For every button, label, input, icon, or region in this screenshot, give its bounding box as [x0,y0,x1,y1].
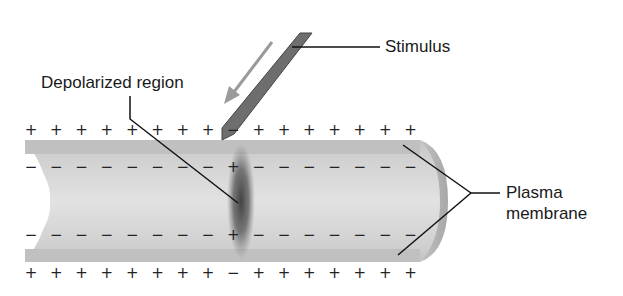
charge-outer-top: + [49,123,63,138]
charge-inner-top: − [75,160,89,175]
charge-outer-bottom: + [252,266,266,281]
depolarized-region-label: Depolarized region [41,73,184,93]
charge-outer-bottom: + [302,266,316,281]
charge-outer-top: + [176,123,190,138]
charge-inner-top: − [24,160,38,175]
charge-inner-bottom: − [353,228,367,243]
charge-inner-top: − [277,160,291,175]
charge-inner-bottom: − [49,228,63,243]
charge-outer-top: + [151,123,165,138]
charge-outer-top: − [226,123,240,138]
charge-inner-top: − [404,160,418,175]
charge-inner-top: − [176,160,190,175]
charge-outer-top: + [404,123,418,138]
charge-inner-top: + [226,160,240,175]
charge-inner-bottom: − [302,228,316,243]
charge-outer-top: + [302,123,316,138]
plasma-membrane-label-line1: Plasma [506,183,563,203]
charge-outer-top: + [378,123,392,138]
charge-outer-bottom: + [24,266,38,281]
charge-inner-top: − [302,160,316,175]
charge-outer-bottom: + [151,266,165,281]
charge-inner-top: − [378,160,392,175]
charge-inner-top: − [353,160,367,175]
charge-outer-top: + [277,123,291,138]
charge-outer-bottom: + [100,266,114,281]
charge-outer-bottom: + [201,266,215,281]
charge-inner-bottom: − [201,228,215,243]
charge-inner-bottom: − [151,228,165,243]
charge-outer-bottom: + [277,266,291,281]
charge-inner-bottom: − [404,228,418,243]
diagram-graphics [0,0,623,296]
charge-outer-bottom: + [378,266,392,281]
charge-inner-bottom: + [226,228,240,243]
charge-outer-bottom: + [49,266,63,281]
charge-outer-top: + [24,123,38,138]
charge-outer-top: + [328,123,342,138]
charge-outer-bottom: + [176,266,190,281]
charge-inner-bottom: − [176,228,190,243]
charge-outer-top: + [252,123,266,138]
charge-inner-top: − [252,160,266,175]
charge-outer-top: + [125,123,139,138]
charge-inner-top: − [328,160,342,175]
charge-outer-top: + [353,123,367,138]
charge-inner-bottom: − [100,228,114,243]
charge-inner-top: − [201,160,215,175]
charge-inner-bottom: − [75,228,89,243]
charge-inner-top: − [100,160,114,175]
plasma-membrane-top [25,140,420,154]
plasma-membrane-label-line2: membrane [506,204,587,224]
charge-inner-bottom: − [252,228,266,243]
charge-inner-bottom: − [378,228,392,243]
charge-outer-top: + [75,123,89,138]
charge-inner-top: − [151,160,165,175]
charge-outer-bottom: + [404,266,418,281]
charge-outer-bottom: + [328,266,342,281]
charge-outer-bottom: + [75,266,89,281]
charge-inner-top: − [125,160,139,175]
charge-outer-bottom: − [226,266,240,281]
charge-outer-top: + [201,123,215,138]
axon-depolarization-diagram: Stimulus Depolarized region Plasma membr… [0,0,623,296]
charge-inner-bottom: − [125,228,139,243]
charge-outer-top: + [100,123,114,138]
plasma-membrane-bottom [25,249,420,262]
charge-inner-bottom: − [277,228,291,243]
charge-outer-bottom: + [353,266,367,281]
charge-inner-bottom: − [24,228,38,243]
charge-inner-top: − [49,160,63,175]
charge-outer-bottom: + [125,266,139,281]
charge-inner-bottom: − [328,228,342,243]
stimulus-label: Stimulus [385,37,450,57]
